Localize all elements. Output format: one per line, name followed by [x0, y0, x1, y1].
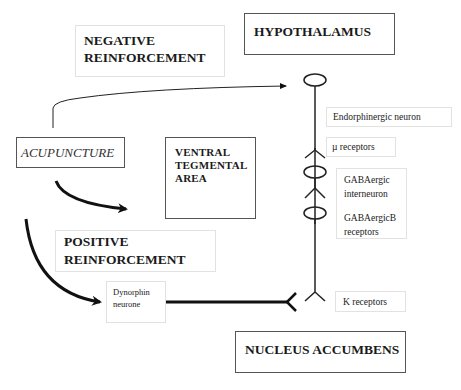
vta-line2: TEGMENTAL [175, 159, 255, 172]
vta-line1: VENTRAL [175, 146, 255, 159]
arrow-acupuncture-to-hypothalamus [53, 86, 286, 128]
endorphinergic-neuron-label: Endorphinergic neuron [333, 110, 451, 124]
dynorphin-neurone-box: Dynorphin neurone [106, 281, 166, 323]
acupuncture-label: ACUPUNCTURE [21, 145, 124, 161]
gabaergic-b-neuron [304, 207, 326, 301]
negative-reinforcement-line1: NEGATIVE [84, 32, 224, 49]
ventral-tegmental-area-box: VENTRAL TEGMENTAL AREA [165, 137, 256, 219]
arrow-acupuncture-to-vta [56, 181, 126, 209]
mu-receptors-label-box: µ receptors [326, 137, 396, 157]
gabaergic-interneuron-line1: GABAergic [344, 173, 406, 187]
negative-reinforcement-box: NEGATIVE REINFORCEMENT [75, 25, 225, 77]
hypothalamus-label: HYPOTHALAMUS [254, 23, 394, 40]
acupuncture-box: ACUPUNCTURE [16, 137, 125, 168]
vta-line3: AREA [175, 172, 255, 185]
dynorphin-line2: neurone [113, 298, 165, 310]
dynorphin-line1: Dynorphin [113, 286, 165, 298]
nucleus-accumbens-label: NUCLEUS ACCUMBENS [245, 341, 405, 358]
endorphinergic-neuron [304, 74, 326, 224]
positive-reinforcement-line1: POSITIVE [64, 233, 215, 251]
mu-receptors-label: µ receptors [332, 140, 395, 154]
gabaergic-b-receptors-line2: receptors [344, 225, 406, 239]
dynorphin-axon [166, 293, 296, 311]
hypothalamus-box: HYPOTHALAMUS [244, 13, 395, 55]
endorphinergic-neuron-label-box: Endorphinergic neuron [326, 107, 452, 127]
gabaergic-label-box: GABAergic interneuron GABAergicB recepto… [336, 168, 407, 239]
k-receptors-label: K receptors [343, 295, 405, 309]
gabaergic-b-receptors-line1: GABAergicB [344, 211, 406, 225]
nucleus-accumbens-box: NUCLEUS ACCUMBENS [235, 331, 406, 373]
positive-reinforcement-line2: REINFORCEMENT [64, 251, 215, 269]
k-receptors-label-box: K receptors [335, 291, 406, 312]
gabaergic-interneuron-line2: interneuron [344, 187, 406, 201]
negative-reinforcement-line2: REINFORCEMENT [84, 49, 224, 66]
positive-reinforcement-box: POSITIVE REINFORCEMENT [55, 230, 216, 272]
